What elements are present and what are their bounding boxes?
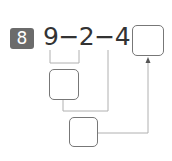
bracket-9-2 [50, 50, 79, 63]
arrow-head-icon [146, 57, 151, 63]
step1-answer-box[interactable] [49, 69, 79, 100]
step2-answer-box[interactable] [69, 117, 98, 147]
arrow-to-result [97, 62, 148, 133]
result-answer-box[interactable] [132, 25, 164, 56]
